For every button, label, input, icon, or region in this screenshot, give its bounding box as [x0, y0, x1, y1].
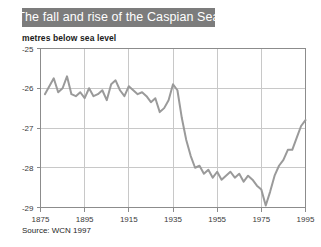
y-tick-label: -26 — [22, 84, 34, 93]
x-tick-label: 1995 — [297, 215, 315, 224]
x-tick-label: 1895 — [76, 215, 94, 224]
y-tick-label: -27 — [22, 124, 34, 133]
x-tick-label: 1915 — [120, 215, 138, 224]
x-tick-label: 1955 — [208, 215, 226, 224]
tick-labels-group: -25-26-27-28-291875189519151935195519751… — [22, 45, 315, 224]
axes-group — [37, 49, 306, 212]
source-note: Source: WCN 1997 — [22, 226, 91, 235]
y-tick-label: -28 — [22, 164, 34, 173]
data-series-group — [45, 76, 306, 205]
plot-area: -25-26-27-28-291875189519151935195519751… — [0, 0, 321, 247]
x-tick-label: 1935 — [164, 215, 182, 224]
y-tick-label: -25 — [22, 45, 34, 54]
gridlines-group — [41, 49, 306, 208]
data-line-caspian-sea-level — [45, 76, 306, 205]
x-tick-label: 1875 — [32, 215, 50, 224]
y-tick-label: -29 — [22, 204, 34, 213]
x-tick-label: 1975 — [252, 215, 270, 224]
line-chart-svg: -25-26-27-28-291875189519151935195519751… — [0, 0, 321, 247]
chart-figure: The fall and rise of the Caspian Sea met… — [0, 0, 321, 247]
